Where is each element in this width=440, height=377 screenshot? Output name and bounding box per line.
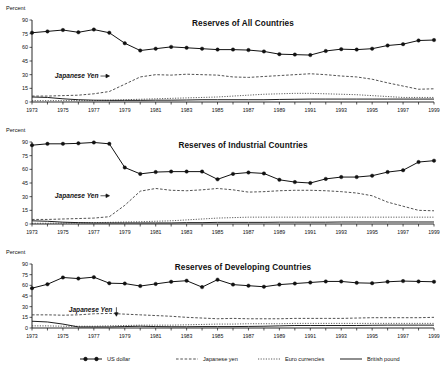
data-point-us-dollar bbox=[231, 283, 235, 287]
data-point-us-dollar bbox=[185, 170, 189, 174]
x-tick-label: 1993 bbox=[335, 229, 347, 235]
chart-panel-developing-countries: PercentReserves of Developing Countries0… bbox=[0, 244, 440, 350]
y-tick-label: 60 bbox=[22, 282, 28, 288]
chart-legend: US dollarJapanese yenEuro currenciesBrit… bbox=[0, 350, 440, 370]
chart-panel-all-countries: PercentReserves of All Countries01530456… bbox=[0, 0, 440, 124]
x-tick-label: 1975 bbox=[57, 107, 69, 113]
panel-title-0: Reserves of All Countries bbox=[192, 19, 294, 28]
data-point-us-dollar bbox=[123, 282, 127, 286]
x-tick-label: 1975 bbox=[57, 333, 69, 339]
y-tick-label: 45 bbox=[22, 180, 28, 186]
x-tick-label: 1987 bbox=[243, 107, 255, 113]
data-point-us-dollar bbox=[386, 280, 390, 284]
data-point-us-dollar bbox=[92, 28, 96, 32]
data-point-us-dollar bbox=[432, 159, 436, 163]
y-tick-label: 30 bbox=[22, 304, 28, 310]
data-point-us-dollar bbox=[262, 50, 266, 54]
x-tick-label: 1977 bbox=[88, 107, 100, 113]
x-tick-label: 1981 bbox=[150, 107, 162, 113]
data-point-us-dollar bbox=[370, 281, 374, 285]
y-tick-label: 45 bbox=[22, 293, 28, 299]
data-point-us-dollar bbox=[355, 48, 359, 52]
x-tick-label: 1977 bbox=[88, 333, 100, 339]
data-point-us-dollar bbox=[200, 285, 204, 289]
data-point-us-dollar bbox=[324, 49, 328, 53]
x-tick-label: 1993 bbox=[335, 333, 347, 339]
y-axis-caption: Percent bbox=[6, 249, 26, 255]
x-tick-label: 1993 bbox=[335, 107, 347, 113]
y-tick-label: 15 bbox=[22, 314, 28, 320]
data-point-us-dollar bbox=[309, 181, 313, 185]
data-point-us-dollar bbox=[185, 279, 189, 283]
annotation-japanese-yen: Japanese Yen bbox=[55, 72, 99, 80]
x-tick-label: 1999 bbox=[428, 333, 440, 339]
x-tick-label: 1973 bbox=[26, 333, 38, 339]
y-tick-label: 60 bbox=[22, 166, 28, 172]
y-tick-label: 15 bbox=[22, 85, 28, 91]
y-tick-label: 90 bbox=[22, 261, 28, 267]
data-point-us-dollar bbox=[370, 47, 374, 51]
data-point-us-dollar bbox=[417, 280, 421, 284]
data-point-us-dollar bbox=[123, 41, 127, 45]
y-tick-label: 30 bbox=[22, 72, 28, 78]
panel-title-2: Reserves of Developing Countries bbox=[175, 263, 312, 272]
data-point-us-dollar bbox=[169, 45, 173, 49]
y-tick-label: 45 bbox=[22, 58, 28, 64]
data-point-us-dollar bbox=[61, 142, 65, 146]
x-tick-label: 1973 bbox=[26, 229, 38, 235]
data-point-us-dollar bbox=[278, 178, 282, 182]
y-tick-label: 75 bbox=[22, 153, 28, 159]
data-point-us-dollar bbox=[108, 281, 112, 285]
x-tick-label: 1985 bbox=[212, 229, 224, 235]
legend-label: Japanese yen bbox=[203, 356, 238, 362]
data-point-us-dollar bbox=[355, 281, 359, 285]
x-tick-label: 1979 bbox=[119, 333, 131, 339]
annotation-arrowhead-icon bbox=[115, 313, 118, 317]
x-tick-label: 1995 bbox=[366, 229, 378, 235]
data-point-us-dollar bbox=[401, 168, 405, 172]
annotation-arrowhead-icon bbox=[106, 194, 110, 198]
data-point-us-dollar bbox=[77, 142, 81, 146]
x-tick-label: 1989 bbox=[274, 107, 286, 113]
legend-item-japanese-yen: Japanese yen bbox=[176, 356, 238, 362]
data-point-us-dollar bbox=[138, 49, 142, 53]
data-point-us-dollar bbox=[247, 48, 251, 52]
y-tick-label: 75 bbox=[22, 272, 28, 278]
data-point-us-dollar bbox=[432, 280, 436, 284]
reserves-currency-composition-figure: PercentReserves of All Countries01530456… bbox=[0, 0, 440, 377]
chart-panel-industrial-countries: PercentReserves of Industrial Countries0… bbox=[0, 122, 440, 246]
data-point-us-dollar bbox=[46, 283, 50, 287]
data-point-us-dollar bbox=[30, 31, 34, 35]
data-point-us-dollar bbox=[154, 47, 158, 51]
panel-title-1: Reserves of Industrial Countries bbox=[178, 141, 308, 150]
data-point-us-dollar bbox=[262, 285, 266, 289]
data-point-us-dollar bbox=[231, 172, 235, 176]
data-point-us-dollar bbox=[386, 170, 390, 174]
x-tick-label: 1987 bbox=[243, 229, 255, 235]
x-tick-label: 1979 bbox=[119, 107, 131, 113]
data-point-us-dollar bbox=[216, 278, 220, 282]
x-tick-label: 1991 bbox=[305, 107, 317, 113]
series-line-japanese-yen bbox=[32, 313, 434, 318]
annotation-japanese-yen: Japanese Yen bbox=[55, 192, 99, 200]
data-point-us-dollar bbox=[138, 172, 142, 176]
x-tick-label: 1983 bbox=[181, 333, 193, 339]
data-point-us-dollar bbox=[169, 170, 173, 174]
data-point-us-dollar bbox=[200, 47, 204, 51]
data-point-us-dollar bbox=[169, 280, 173, 284]
data-point-us-dollar bbox=[92, 275, 96, 279]
x-tick-label: 1997 bbox=[397, 333, 409, 339]
data-point-us-dollar bbox=[216, 48, 220, 52]
data-point-us-dollar bbox=[154, 282, 158, 286]
x-tick-label: 1973 bbox=[26, 107, 38, 113]
x-tick-label: 1977 bbox=[88, 229, 100, 235]
data-point-us-dollar bbox=[77, 31, 81, 35]
data-point-us-dollar bbox=[154, 170, 158, 174]
legend-label: Euro currencies bbox=[285, 356, 324, 362]
y-tick-label: 15 bbox=[22, 207, 28, 213]
chart-plot-area-2: PercentReserves of Developing Countries0… bbox=[0, 244, 440, 350]
y-tick-label: 90 bbox=[22, 17, 28, 23]
legend-swatch-marker bbox=[84, 357, 88, 361]
data-point-us-dollar bbox=[61, 276, 65, 280]
data-point-us-dollar bbox=[309, 281, 313, 285]
